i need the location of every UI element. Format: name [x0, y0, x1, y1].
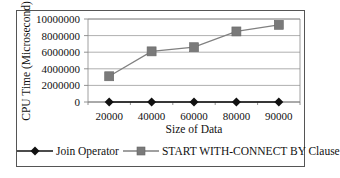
data-point-square [147, 47, 156, 56]
legend-label-start-with-connect-by: START WITH-CONNECT BY Clause [162, 145, 340, 157]
y-tick-label: 2000000 [42, 79, 81, 91]
y-tick-label: 6000000 [42, 46, 81, 58]
data-point-square [232, 27, 241, 36]
series-lines [105, 20, 284, 106]
y-tick-label: 8000000 [42, 30, 81, 42]
square-marker-icon [123, 145, 159, 157]
data-point-square [190, 43, 199, 52]
data-point-diamond [105, 98, 114, 107]
y-tick-label: 0 [75, 96, 81, 108]
legend-item-join-operator: Join Operator [17, 145, 119, 157]
legend-item-start-with-connect-by: START WITH-CONNECT BY Clause [123, 145, 340, 157]
x-tick-label: 90000 [265, 110, 293, 122]
y-axis-ticks: 0200000040000006000000800000010000000 [36, 13, 81, 108]
data-point-diamond [274, 98, 283, 107]
y-tick-label: 4000000 [42, 63, 81, 75]
data-point-square [274, 20, 283, 29]
x-tick-label: 60000 [180, 110, 208, 122]
data-point-diamond [190, 98, 199, 107]
diamond-marker-icon [17, 145, 53, 157]
data-point-diamond [232, 98, 241, 107]
data-point-square [105, 72, 114, 81]
chart-legend: Join Operator START WITH-CONNECT BY Clau… [17, 142, 305, 160]
x-axis-ticks: 2000040000600008000090000 [95, 110, 293, 122]
y-tick-label: 10000000 [36, 13, 81, 25]
x-tick-label: 20000 [95, 110, 123, 122]
gridlines [84, 19, 300, 105]
y-axis-title: CPU Time (Microsecond) [20, 1, 33, 121]
x-tick-label: 40000 [138, 110, 166, 122]
data-point-diamond [147, 98, 156, 107]
x-axis-title: Size of Data [166, 123, 223, 135]
legend-label-join-operator: Join Operator [56, 145, 119, 157]
x-tick-label: 80000 [223, 110, 251, 122]
